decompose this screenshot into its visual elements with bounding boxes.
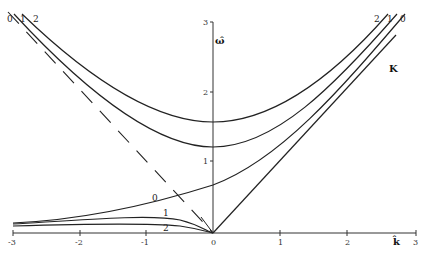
y-tick-label: 2 [203, 88, 208, 97]
x-tick-label: 2 [345, 238, 350, 247]
x-tick-label: -2 [75, 238, 83, 247]
curve-label: 0 [7, 14, 13, 24]
branch-0 [13, 14, 405, 223]
x-axis-label: k̂ [392, 235, 401, 247]
curve-label: 2 [374, 14, 380, 24]
x-tick-label: 1 [278, 238, 283, 247]
y-tick-label: 1 [203, 157, 208, 166]
x-tick-label: -1 [141, 238, 149, 247]
y-axis-label: ω̂ [215, 35, 225, 46]
lower-branch-2 [13, 224, 213, 233]
k-line [213, 35, 396, 233]
dispersion-chart: -3 -2 -1 0 1 2 3 1 2 3 ω̂ k̂ K 0 1 2 2 1… [0, 0, 430, 256]
curve-label: 1 [387, 14, 393, 24]
x-tick-label: 3 [413, 238, 418, 247]
upper-branch-2 [22, 14, 388, 122]
curve-label: 1 [20, 14, 26, 24]
y-tick-label: 3 [203, 18, 208, 27]
curve-label: 2 [33, 14, 39, 24]
k-line-label: K [389, 63, 398, 74]
curve-label: 1 [163, 208, 169, 218]
curve-label: 0 [400, 14, 406, 24]
dashed-asymptote [8, 12, 213, 233]
x-tick-label: 0 [211, 238, 216, 247]
curve-label: 0 [152, 193, 158, 203]
curve-label: 2 [163, 223, 169, 233]
x-tick-label: -3 [8, 238, 16, 247]
